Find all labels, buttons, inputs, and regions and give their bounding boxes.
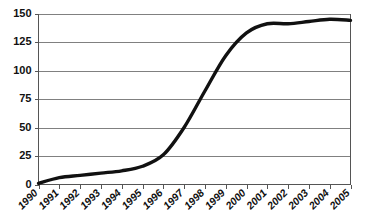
y-axis-label-150: 150 (13, 7, 31, 19)
chart-background (0, 0, 368, 222)
y-axis-label-100: 100 (13, 64, 31, 76)
y-axis-label-25: 25 (19, 149, 31, 161)
y-axis-label-75: 75 (19, 92, 31, 104)
chart-canvas: 0255075100125150 19901991199219931994199… (0, 0, 368, 222)
y-axis-label-50: 50 (19, 121, 31, 133)
line-chart-figure: 0255075100125150 19901991199219931994199… (0, 0, 368, 222)
y-axis-label-125: 125 (13, 35, 31, 47)
